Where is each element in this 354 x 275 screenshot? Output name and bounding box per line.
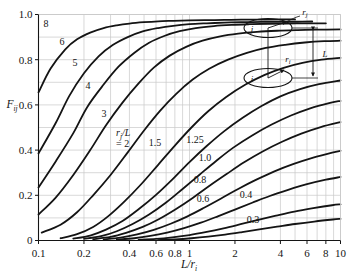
parameter-label-eq: = 2 [116,138,129,149]
x-tick-label-1: 0.2 [77,247,91,259]
y-tick-label-2: 0.4 [19,144,33,156]
chart-background [0,0,354,275]
chart-svg: 00.20.40.60.81.00.10.20.40.60.81246810Fi… [0,0,354,275]
x-tick-label-5: 1 [187,247,193,259]
x-tick-label-4: 0.8 [168,247,182,259]
x-tick-label-6: 2 [232,247,238,259]
x-tick-label-9: 8 [323,247,329,259]
x-tick-label-2: 0.4 [123,247,137,259]
curve-label-0_4: 0.4 [240,189,253,200]
y-tick-label-1: 0.2 [19,189,33,201]
x-tick-label-3: 0.6 [149,247,163,259]
curve-label-1_0: 1.0 [199,152,212,163]
curve-label-8: 8 [44,18,49,29]
y-tick-label-0: 0 [27,234,33,246]
curve-label-1_5: 1.5 [149,137,162,148]
inset-label-L: L [321,49,327,59]
x-tick-label-7: 4 [278,247,284,259]
curve-label-1_25: 1.25 [186,134,204,145]
curve-label-6: 6 [60,36,65,47]
y-tick-label-4: 0.8 [19,54,33,66]
x-tick-label-10: 10 [335,247,347,259]
curve-label-3: 3 [102,108,107,119]
x-tick-label-0: 0.1 [32,247,46,259]
y-tick-label-3: 0.6 [19,99,33,111]
curve-label-0_3: 0.3 [247,214,260,225]
inset-label-j: j [250,24,254,34]
curve-label-5: 5 [73,57,78,68]
x-tick-label-8: 6 [304,247,310,259]
view-factor-chart: 00.20.40.60.81.00.10.20.40.60.81246810Fi… [0,0,354,275]
curve-label-0_6: 0.6 [197,193,210,204]
curve-label-4: 4 [86,80,91,91]
y-tick-label-5: 1.0 [19,8,33,20]
curve-label-0_8: 0.8 [194,174,207,185]
